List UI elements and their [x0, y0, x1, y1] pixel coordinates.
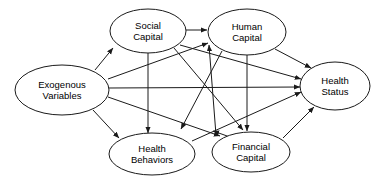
node-label-line: Health	[321, 74, 348, 85]
edge-exogenous-to-social	[95, 48, 113, 70]
node-label-line: Capital	[236, 151, 266, 162]
node-label-line: Human	[232, 20, 263, 31]
node-label-social: SocialCapital	[133, 19, 163, 41]
node-label-line: Status	[322, 85, 349, 96]
edge-human-to-health_behaviors	[181, 51, 222, 129]
node-label-health_status: HealthStatus	[321, 74, 348, 96]
node-health_status[interactable]: HealthStatus	[300, 62, 370, 110]
node-label-line: Variables	[43, 89, 82, 100]
node-label-human: HumanCapital	[232, 20, 263, 42]
node-label-line: Capital	[133, 30, 163, 41]
node-label-line: Financial	[232, 140, 270, 151]
edge-exogenous-to-health_behaviors	[93, 110, 119, 138]
node-human[interactable]: HumanCapital	[208, 9, 286, 55]
node-label-exogenous: ExogenousVariables	[38, 78, 86, 100]
edge-human-to-health_status	[275, 49, 311, 68]
node-label-financial: FinancialCapital	[232, 140, 270, 162]
node-label-line: Exogenous	[38, 78, 86, 89]
node-label-line: Health	[138, 142, 165, 153]
node-label-line: Behaviors	[131, 153, 173, 164]
node-label-line: Capital	[232, 31, 262, 42]
node-label-line: Social	[135, 19, 161, 30]
diagram-svg: ExogenousVariablesSocialCapitalHumanCapi…	[0, 0, 380, 180]
edge-financial-to-health_status	[283, 107, 314, 138]
node-financial[interactable]: FinancialCapital	[212, 132, 290, 172]
node-health_behaviors[interactable]: HealthBehaviors	[109, 133, 195, 175]
path-diagram-canvas: ExogenousVariablesSocialCapitalHumanCapi…	[0, 0, 380, 180]
node-exogenous[interactable]: ExogenousVariables	[15, 65, 109, 115]
nodes-layer: ExogenousVariablesSocialCapitalHumanCapi…	[15, 9, 370, 175]
node-social[interactable]: SocialCapital	[110, 9, 186, 53]
edge-exogenous-to-financial	[108, 97, 220, 136]
edge-financial-to-human	[209, 45, 216, 135]
edge-exogenous-to-health_status	[109, 87, 300, 88]
